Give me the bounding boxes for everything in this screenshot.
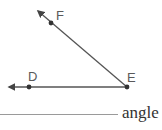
label-e: E	[127, 70, 136, 85]
answer-blank-line[interactable]	[0, 114, 118, 115]
label-f: F	[56, 8, 64, 23]
point-d	[27, 85, 32, 90]
label-d: D	[28, 69, 37, 84]
point-f	[49, 21, 54, 26]
point-e	[125, 85, 130, 90]
answer-suffix: angle	[122, 103, 159, 123]
